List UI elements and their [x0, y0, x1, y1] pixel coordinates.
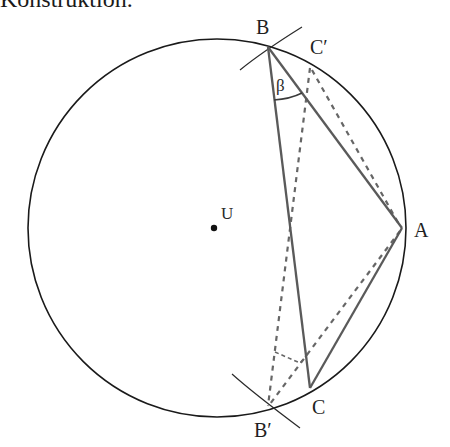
dashed-triangle — [268, 68, 400, 406]
dashed-c-prime-b-prime — [268, 68, 310, 406]
dashed-c-prime-a — [312, 70, 400, 226]
dashed-a-b-prime — [270, 231, 400, 404]
circle-construction-diagram: U β B C′ A C B′ — [0, 0, 450, 447]
label-c-prime: C′ — [310, 36, 328, 58]
label-b: B — [256, 16, 269, 38]
center-point-u — [211, 225, 217, 231]
label-a: A — [414, 219, 429, 241]
label-b-prime: B′ — [254, 419, 272, 441]
label-beta: β — [276, 76, 285, 95]
label-c: C — [312, 396, 325, 418]
label-u: U — [221, 204, 233, 223]
